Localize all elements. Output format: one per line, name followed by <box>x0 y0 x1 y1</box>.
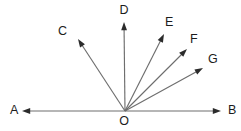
ray-oe-arrowhead-icon <box>158 34 164 43</box>
ray-oc-shaft <box>81 44 125 111</box>
ray-of-shaft <box>125 53 183 111</box>
ray-oa-arrowhead-icon <box>22 108 30 114</box>
ray-og-arrowhead-icon <box>194 68 203 74</box>
point-label-d: D <box>119 3 128 17</box>
point-label-c: C <box>58 24 67 38</box>
point-label-f: F <box>190 32 198 46</box>
vertex-group: O <box>119 114 129 128</box>
point-label-b: B <box>228 103 236 117</box>
ray-oe-shaft <box>125 39 161 111</box>
ray-og-shaft <box>125 71 198 111</box>
point-label-g: G <box>208 52 218 66</box>
geometry-diagram: ABCDEFG O <box>0 0 241 131</box>
vertex-label-o: O <box>119 114 129 128</box>
ray-od-shaft <box>124 28 125 111</box>
point-label-e: E <box>165 15 173 29</box>
ray-oc-arrowhead-icon <box>78 39 85 47</box>
ray-ob-arrowhead-icon <box>213 108 221 114</box>
ray-od-arrowhead-icon <box>121 22 127 30</box>
labels-group: ABCDEFG <box>10 3 236 117</box>
point-label-a: A <box>10 103 19 117</box>
rays-svg-canvas: ABCDEFG O <box>0 0 241 131</box>
